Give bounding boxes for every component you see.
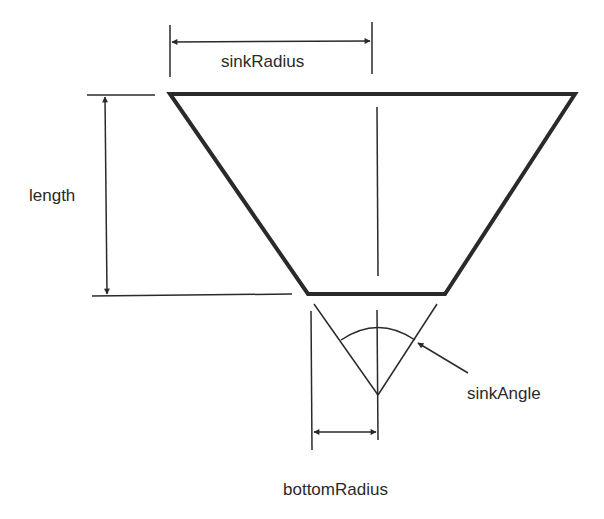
cone-line-left [314, 304, 378, 395]
sink-radius-label: sinkRadius [221, 52, 304, 72]
length-arrow [105, 97, 107, 294]
diagram-canvas [0, 0, 604, 519]
sink-angle-arc [341, 328, 415, 341]
length-ext-bottom [92, 294, 292, 296]
sink-angle-leader [418, 343, 468, 373]
sink-radius-arrow [172, 41, 370, 42]
centerline [377, 107, 378, 276]
bottom-radius-ext-left [311, 311, 312, 450]
sink-angle-label: sinkAngle [467, 384, 541, 404]
bottom-radius-label: bottomRadius [283, 480, 388, 500]
length-label: length [29, 186, 75, 206]
countersink-body [170, 94, 575, 294]
centerline-lower [377, 310, 378, 440]
